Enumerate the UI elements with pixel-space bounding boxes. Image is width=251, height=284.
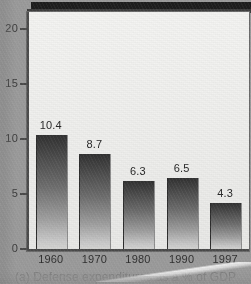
x-axis-line bbox=[27, 249, 249, 251]
bar bbox=[123, 181, 155, 250]
y-axis-tick-label: 15 bbox=[0, 78, 18, 89]
x-axis-tick-label: 1990 bbox=[160, 254, 204, 265]
bar bbox=[167, 178, 199, 250]
bar bbox=[79, 154, 111, 250]
y-axis-tick bbox=[20, 193, 29, 195]
y-axis-line bbox=[27, 12, 29, 251]
bar bbox=[210, 203, 242, 250]
y-axis-tick bbox=[20, 28, 29, 30]
figure-panel: 05101520 10.48.76.36.54.3 19601970198019… bbox=[0, 0, 251, 284]
y-axis-tick-label: 5 bbox=[0, 188, 18, 199]
y-axis-tick-label: 10 bbox=[0, 133, 18, 144]
bar bbox=[36, 135, 68, 250]
bar-value-label: 4.3 bbox=[203, 188, 247, 199]
y-axis-tick bbox=[20, 248, 29, 250]
y-axis-tick bbox=[20, 83, 29, 85]
x-axis-tick-label: 1980 bbox=[116, 254, 160, 265]
x-axis-tick-label: 1970 bbox=[72, 254, 116, 265]
x-axis-tick-label: 1997 bbox=[203, 254, 247, 265]
y-axis-tick bbox=[20, 138, 29, 140]
x-axis-tick-label: 1960 bbox=[29, 254, 73, 265]
bar-value-label: 6.5 bbox=[160, 163, 204, 174]
bar-value-label: 8.7 bbox=[72, 139, 116, 150]
bar-value-label: 10.4 bbox=[29, 120, 73, 131]
y-axis-tick-label: 20 bbox=[0, 23, 18, 34]
bar-value-label: 6.3 bbox=[116, 166, 160, 177]
y-axis-tick-label: 0 bbox=[0, 243, 18, 254]
figure-caption: (a) Defense expenditures as a % of GDP bbox=[0, 271, 251, 284]
